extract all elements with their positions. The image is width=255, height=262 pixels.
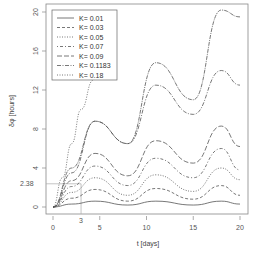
legend-label: K= 0.07: [79, 43, 103, 50]
chart-svg: 05101520048121620 32.38 K= 0.01K= 0.03K=…: [0, 0, 255, 262]
x-tick-label: 15: [189, 224, 197, 231]
legend-label: K= 0.09: [79, 53, 103, 60]
y-tick-label: 8: [32, 127, 39, 131]
legend-label: K= 0.05: [79, 34, 103, 41]
x-tick-label: 0: [51, 224, 55, 231]
y-tick-label: 20: [32, 8, 39, 16]
x-tick-label: 10: [143, 224, 151, 231]
legend-label: K= 0.03: [79, 24, 103, 31]
y-axis-label: δφ [hours]: [8, 95, 16, 127]
x-tick-label: 5: [98, 224, 102, 231]
x-tick-label: 20: [236, 224, 244, 231]
x-axis-label: t [days]: [137, 240, 160, 248]
legend-label: K= 0.01: [79, 15, 103, 22]
legend: K= 0.01K= 0.03K= 0.05K= 0.07K= 0.09K= 0.…: [52, 10, 117, 80]
y-tick-label: 16: [32, 47, 39, 55]
y-tick-label: 4: [32, 166, 39, 170]
series-line: [53, 80, 93, 207]
y-tick-label: 0: [32, 205, 39, 209]
legend-label: K= 0.18: [79, 72, 103, 79]
legend-label: K= 0.1183: [79, 62, 111, 69]
ref-y-label: 2.38: [20, 180, 34, 187]
reference-lines: 32.38: [20, 180, 83, 224]
y-tick-label: 12: [32, 86, 39, 94]
ref-x-label: 3: [79, 217, 83, 224]
